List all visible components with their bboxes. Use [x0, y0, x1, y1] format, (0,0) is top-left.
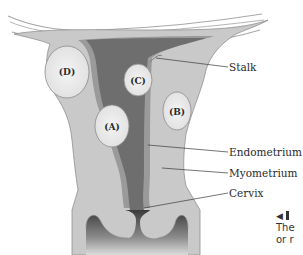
fibroid-label-c: (D): [59, 68, 75, 77]
fibroid-label-d: (C): [130, 77, 146, 86]
caption-truncated-bar: [286, 211, 289, 220]
callout-myometrium: Myometrium: [229, 168, 298, 179]
callout-stalk: Stalk: [229, 62, 256, 73]
caption-line-1: The: [276, 222, 295, 234]
fibroid-diagram: (D) (A) (B) (C) Stalk Endometrium Myomet…: [0, 0, 303, 255]
fibroid-label-a: (A): [104, 123, 120, 132]
callout-cervix: Cervix: [229, 188, 263, 199]
uterus-illustration: [0, 0, 303, 255]
caption-line-2: or r: [276, 234, 295, 246]
figure-caption: ◀ The or r: [276, 210, 295, 246]
callout-endometrium: Endometrium: [229, 147, 302, 158]
fibroid-label-b: (B): [169, 108, 185, 117]
caption-arrow-icon: ◀: [276, 211, 283, 221]
